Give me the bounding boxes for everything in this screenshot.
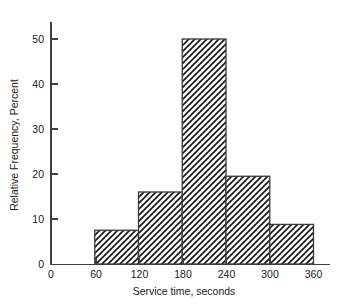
x-tick-label: 240	[218, 268, 236, 280]
y-tick-label: 40	[32, 78, 44, 90]
y-tick-label: 10	[32, 213, 44, 225]
bar-120-180	[139, 192, 183, 264]
bar-300-360	[270, 224, 314, 264]
histogram-figure: 50 40 30 20 10 0 0 60	[0, 0, 347, 305]
x-tick-label: 60	[90, 268, 102, 280]
bar-240-300	[226, 176, 270, 264]
y-tick-label: 20	[32, 168, 44, 180]
x-tick-label: 300	[261, 268, 279, 280]
y-tick-label: 0	[38, 258, 44, 270]
y-tick-label: 50	[32, 33, 44, 45]
bar-180-240	[182, 39, 226, 264]
x-tick-label: 360	[305, 268, 323, 280]
x-tick-label: 0	[48, 268, 54, 280]
x-tick-label: 120	[131, 268, 149, 280]
x-axis-title: Service time, seconds	[133, 285, 236, 297]
bars-group	[95, 39, 314, 264]
x-tick-labels: 0 60 120 180 240 300 360	[48, 268, 322, 280]
bar-60-120	[95, 230, 139, 264]
y-tick-marks	[52, 39, 58, 219]
chart-canvas: 50 40 30 20 10 0 0 60	[0, 0, 347, 305]
y-axis-title: Relative Frequency, Percent	[8, 79, 20, 211]
y-tick-labels: 50 40 30 20 10 0	[32, 33, 44, 271]
x-tick-label: 180	[174, 268, 192, 280]
y-tick-label: 30	[32, 123, 44, 135]
